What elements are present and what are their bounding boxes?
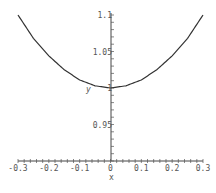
- x-tick-label: 0: [108, 164, 113, 173]
- y-tick-label: 1.05: [93, 48, 112, 57]
- x-tick-labels: -0.3-0.2-0.100.10.20.3: [8, 164, 210, 173]
- x-tick-label: -0.3: [8, 164, 27, 173]
- x-tick-label: 0.2: [165, 164, 180, 173]
- y-axis-label: y: [85, 85, 91, 94]
- y-tick-label: 1: [107, 84, 112, 93]
- x-tick-label: -0.1: [70, 164, 89, 173]
- line-chart: -0.3-0.2-0.100.10.20.3 0.9511.051.1 x y: [0, 0, 216, 193]
- y-tick-label: 1.1: [98, 11, 113, 20]
- x-tick-label: 0.1: [134, 164, 149, 173]
- y-tick-labels: 0.9511.051.1: [93, 11, 112, 130]
- y-tick-label: 0.95: [93, 121, 112, 130]
- x-tick-label: 0.3: [196, 164, 211, 173]
- x-tick-label: -0.2: [39, 164, 58, 173]
- x-axis-label: x: [109, 173, 114, 182]
